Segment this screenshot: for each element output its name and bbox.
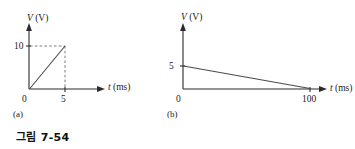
chart-b-y-axis-label: V (V) bbox=[181, 13, 202, 23]
chart-b-xtick-label-0: 0 bbox=[176, 95, 181, 105]
chart-a-canvas bbox=[0, 0, 170, 149]
chart-b-panel-tag: (b) bbox=[167, 110, 178, 119]
chart-a-y-axis-arrow-icon bbox=[26, 23, 32, 31]
figure-caption: 그림 7-54 bbox=[16, 128, 69, 144]
chart-b-y-axis-arrow-icon bbox=[180, 23, 186, 31]
chart-a-x-axis-unit: (ms) bbox=[113, 82, 130, 92]
chart-a-panel-tag: (a) bbox=[13, 110, 23, 119]
chart-a-ytick-label-10: 10 bbox=[14, 42, 24, 52]
chart-a-xtick-label-0: 0 bbox=[22, 95, 27, 105]
chart-panel-b: V (V) t (ms) 5 0 100 (b) bbox=[155, 0, 355, 149]
chart-b-x-axis-unit: (ms) bbox=[335, 83, 352, 93]
chart-a-y-axis-unit: (V) bbox=[35, 13, 48, 23]
chart-panel-a: V (V) t (ms) 10 0 5 (a) bbox=[0, 0, 170, 149]
chart-b-x-axis-label: t (ms) bbox=[330, 84, 352, 94]
chart-b-xtick-label-100: 100 bbox=[302, 95, 316, 105]
chart-a-y-axis-label: V (V) bbox=[27, 14, 48, 24]
figure-container: V (V) t (ms) 10 0 5 (a) V (V) bbox=[0, 0, 355, 149]
chart-b-y-axis-unit: (V) bbox=[189, 12, 202, 22]
chart-a-x-axis-label: t (ms) bbox=[108, 83, 130, 93]
chart-a-series-voltage-ramp bbox=[30, 46, 66, 89]
chart-b-series-voltage-decay bbox=[184, 66, 311, 89]
chart-a-xtick-label-5: 5 bbox=[61, 95, 66, 105]
chart-b-ytick-label-5: 5 bbox=[169, 62, 174, 72]
chart-a-x-axis-arrow-icon bbox=[97, 86, 105, 92]
chart-b-x-axis-arrow-icon bbox=[319, 86, 327, 92]
